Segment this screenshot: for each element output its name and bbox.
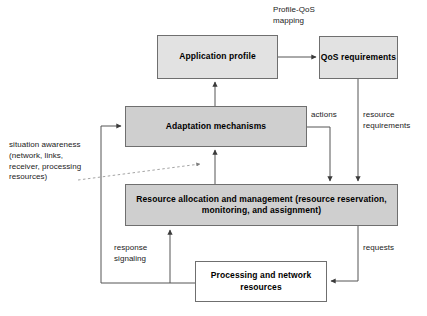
- edge-adaptation-to-resource-allocation: [307, 127, 330, 181]
- edge-label-actions: actions: [311, 110, 337, 121]
- node-adaptation-mechanisms-label: Adaptation mechanisms: [166, 121, 266, 132]
- edge-resource-allocation-to-processing: [331, 226, 358, 281]
- edge-label-resource-requirements: resource requirements: [363, 110, 410, 132]
- note-situation-awareness: situation awareness (network, links, rec…: [9, 140, 131, 183]
- node-processing-resources-label: Processing and network resources: [196, 270, 326, 292]
- node-adaptation-mechanisms[interactable]: Adaptation mechanisms: [125, 106, 307, 147]
- node-application-profile-label: Application profile: [179, 51, 256, 62]
- node-resource-allocation-label: Resource allocation and management (reso…: [126, 194, 397, 216]
- node-application-profile[interactable]: Application profile: [157, 35, 278, 79]
- edge-label-response-signaling: response signaling: [114, 243, 147, 265]
- node-qos-requirements[interactable]: QoS requirements: [319, 36, 398, 79]
- edge-label-profile-qos-mapping: Profile-QoS mapping: [273, 5, 315, 27]
- node-qos-requirements-label: QoS requirements: [321, 52, 396, 63]
- edge-label-requests: requests: [363, 243, 394, 254]
- diagram-canvas: Application profile QoS requirements Ada…: [0, 0, 427, 316]
- node-resource-allocation[interactable]: Resource allocation and management (reso…: [125, 184, 398, 226]
- node-processing-resources[interactable]: Processing and network resources: [195, 261, 327, 302]
